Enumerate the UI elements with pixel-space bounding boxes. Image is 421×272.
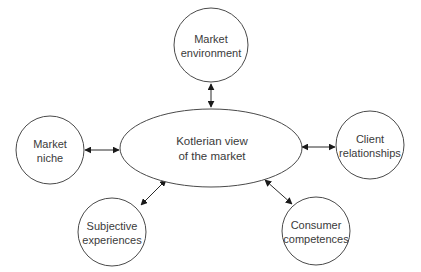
connector-subjective-experiences: [141, 180, 166, 205]
subjective-experiences-line1: Subjective: [87, 219, 138, 233]
client-relationships-line1: Client: [356, 132, 384, 146]
market-environment-line2: environment: [181, 46, 242, 60]
node-market-environment: Market environment: [181, 32, 242, 60]
market-niche-line2: niche: [37, 151, 63, 165]
center-node-label: Kotlerian view of the market: [176, 134, 248, 164]
node-subjective-experiences: Subjective experiences: [82, 219, 141, 247]
center-label-line2: of the market: [178, 149, 245, 164]
client-relationships-line2: relationships: [339, 146, 401, 160]
market-environment-line1: Market: [194, 32, 228, 46]
consumer-competences-line2: competences: [283, 232, 348, 246]
node-client-relationships: Client relationships: [339, 132, 401, 160]
node-market-niche: Market niche: [33, 137, 67, 165]
subjective-experiences-line2: experiences: [82, 233, 141, 247]
market-niche-line1: Market: [33, 137, 67, 151]
connector-consumer-competences: [265, 180, 292, 204]
consumer-competences-line1: Consumer: [291, 218, 342, 232]
node-consumer-competences: Consumer competences: [283, 218, 348, 246]
center-label-line1: Kotlerian view: [176, 134, 248, 149]
